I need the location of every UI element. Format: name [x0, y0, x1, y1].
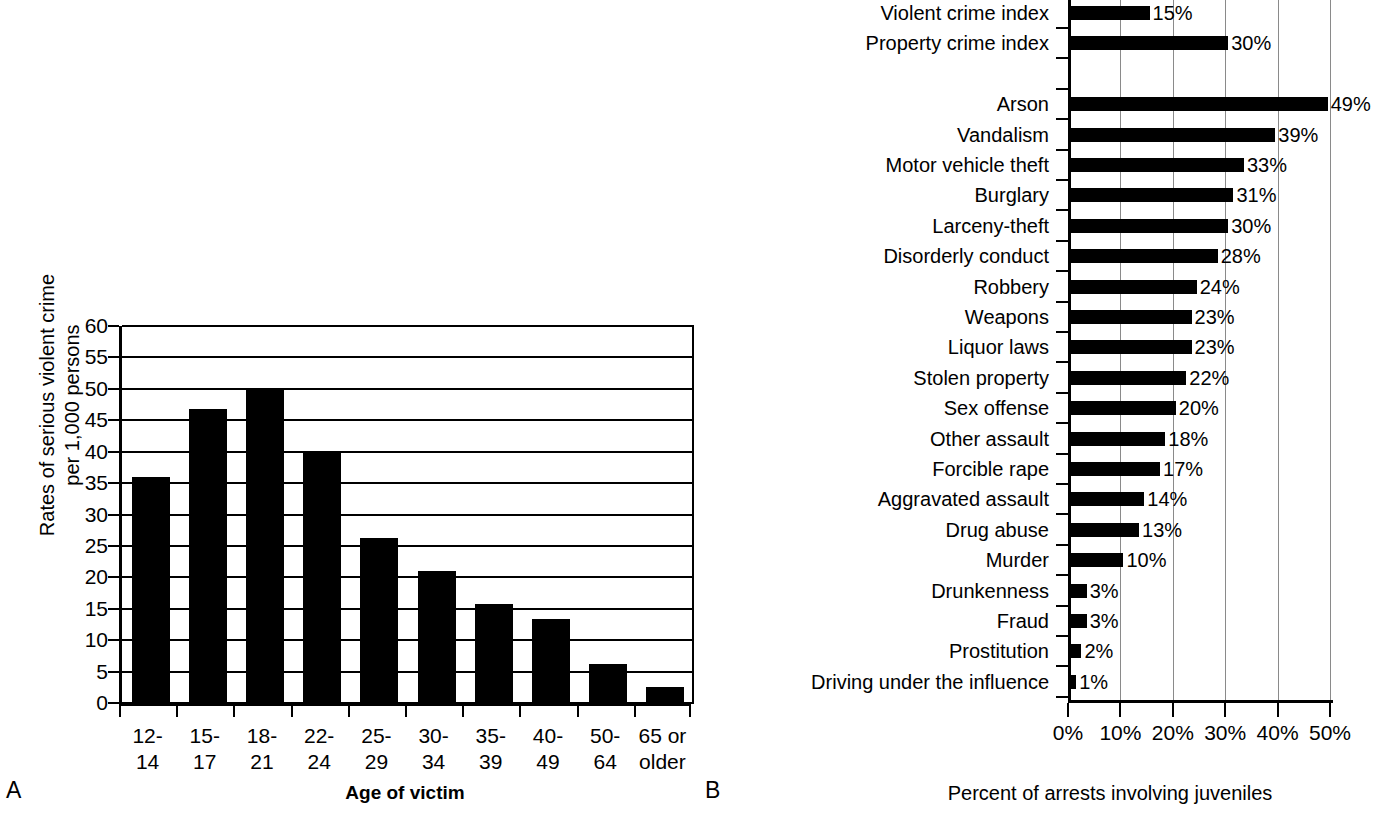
chart-b-value-label: 1%: [1079, 672, 1108, 692]
chart-b-value-label: 33%: [1247, 155, 1287, 175]
chart-b-value-label: 3%: [1090, 611, 1119, 631]
chart-b-category-label: Drunkenness: [931, 581, 1049, 601]
chart-b-y-tick-mark: [1056, 544, 1068, 546]
chart-a-y-tick-labels: 051015202530354045505560: [60, 326, 108, 703]
chart-b-category-label: Other assault: [930, 429, 1049, 449]
chart-a-category-label: 30- 34: [405, 723, 462, 775]
chart-b-y-tick-mark: [1056, 605, 1068, 607]
chart-b-bar: [1071, 462, 1160, 476]
chart-b-bar: [1071, 523, 1139, 537]
chart-a-bar: [532, 619, 570, 703]
chart-b-value-label: 15%: [1153, 3, 1193, 23]
chart-b-bar: [1071, 492, 1144, 506]
chart-b-x-tick-label: 50%: [1300, 722, 1360, 743]
chart-b-bar: [1071, 97, 1328, 111]
chart-b-y-tick-mark: [1056, 453, 1068, 455]
chart-b-category-label: Aggravated assault: [878, 489, 1049, 509]
chart-b-bar: [1071, 158, 1244, 172]
chart-a-y-tick-mark: [108, 702, 119, 704]
chart-a-y-tick-label: 20: [62, 566, 108, 587]
chart-b-x-tick-label: 30%: [1195, 722, 1255, 743]
chart-b-x-tick-mark: [1172, 703, 1174, 717]
chart-b-value-label: 31%: [1236, 185, 1276, 205]
chart-panel-b: Violent crime index15%Property crime ind…: [700, 0, 1379, 829]
chart-b-y-tick-mark: [1056, 57, 1068, 59]
chart-a-x-tick-mark: [176, 703, 178, 717]
panel-b-letter: B: [705, 777, 720, 804]
chart-b-y-tick-mark: [1056, 27, 1068, 29]
chart-b-value-label: 2%: [1084, 641, 1113, 661]
chart-b-y-tick-mark: [1056, 331, 1068, 333]
chart-a-y-tick-mark: [108, 576, 119, 578]
chart-a-y-tick-mark: [108, 388, 119, 390]
chart-b-bar: [1071, 584, 1087, 598]
chart-b-bar: [1071, 614, 1087, 628]
chart-b-category-label: Fraud: [997, 611, 1049, 631]
chart-a-y-tick-label: 0: [62, 692, 108, 713]
chart-a-category-label: 65 or older: [634, 723, 691, 775]
chart-a-x-tick-mark: [519, 703, 521, 717]
chart-b-bar: [1071, 371, 1186, 385]
chart-b-bar: [1071, 644, 1081, 658]
chart-a-y-tick-marks: [108, 326, 119, 703]
chart-a-x-tick-mark: [689, 703, 691, 717]
chart-b-value-label: 10%: [1126, 550, 1166, 570]
chart-b-bar: [1071, 340, 1192, 354]
panel-a-letter: A: [6, 777, 21, 804]
chart-b-category-label: Property crime index: [866, 33, 1049, 53]
chart-b-value-label: 49%: [1331, 94, 1371, 114]
chart-b-x-tick-mark: [1067, 703, 1069, 717]
chart-panel-a: Rates of serious violent crime per 1,000…: [0, 0, 700, 829]
chart-b-bar: [1071, 401, 1176, 415]
chart-a-bar: [303, 452, 341, 703]
chart-b-x-axis-label: Percent of arrests involving juveniles: [880, 782, 1340, 805]
chart-b-y-tick-mark: [1056, 696, 1068, 698]
chart-b-bar: [1071, 432, 1165, 446]
chart-a-gridline: [122, 388, 694, 390]
chart-b-bar: [1071, 6, 1150, 20]
chart-a-y-tick-label: 5: [62, 661, 108, 682]
chart-a-x-tick-mark: [577, 703, 579, 717]
chart-b-category-label: Drug abuse: [946, 520, 1049, 540]
chart-a-y-tick-mark: [108, 639, 119, 641]
chart-b-bar: [1071, 128, 1275, 142]
chart-b-y-tick-mark: [1056, 483, 1068, 485]
chart-b-category-label: Larceny-theft: [932, 216, 1049, 236]
chart-b-value-label: 39%: [1278, 125, 1318, 145]
chart-b-category-label: Sex offense: [944, 398, 1049, 418]
chart-b-value-label: 20%: [1179, 398, 1219, 418]
chart-a-plot-inner: [122, 326, 694, 703]
chart-a-y-tick-label: 10: [62, 629, 108, 650]
chart-a-y-tick-label: 55: [62, 346, 108, 367]
chart-a-x-tick-mark: [348, 703, 350, 717]
chart-b-bar: [1071, 553, 1123, 567]
chart-a-y-tick-mark: [108, 419, 119, 421]
chart-b-x-tick-label: 10%: [1090, 722, 1150, 743]
chart-b-bar: [1071, 310, 1192, 324]
chart-b-bar: [1071, 188, 1233, 202]
chart-a-y-tick-label: 50: [62, 378, 108, 399]
chart-a-x-tick-mark: [462, 703, 464, 717]
chart-b-y-tick-mark: [1056, 301, 1068, 303]
chart-a-category-label: 25- 29: [348, 723, 405, 775]
chart-a-y-tick-label: 40: [62, 441, 108, 462]
chart-b-category-label: Violent crime index: [880, 3, 1049, 23]
chart-b-x-tick-label: 40%: [1248, 722, 1308, 743]
chart-a-y-tick-label: 25: [62, 535, 108, 556]
chart-b-bar: [1071, 249, 1218, 263]
chart-b-x-tick-mark: [1224, 703, 1226, 717]
chart-a-category-label: 15- 17: [176, 723, 233, 775]
chart-a-category-label: 50- 64: [577, 723, 634, 775]
chart-b-value-label: 23%: [1195, 337, 1235, 357]
chart-a-category-label: 40- 49: [519, 723, 576, 775]
chart-b-category-label: Vandalism: [957, 125, 1049, 145]
chart-a-y-tick-mark: [108, 325, 119, 327]
chart-a-category-label: 18- 21: [233, 723, 290, 775]
chart-a-gridline: [122, 325, 694, 327]
chart-a-plot-area: [119, 326, 694, 703]
chart-a-bar: [418, 571, 456, 703]
chart-a-x-tick-mark: [233, 703, 235, 717]
chart-b-value-label: 28%: [1221, 246, 1261, 266]
chart-b-y-tick-mark: [1056, 513, 1068, 515]
chart-b-value-label: 22%: [1189, 368, 1229, 388]
